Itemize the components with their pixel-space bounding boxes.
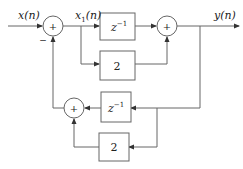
top-gain-label: 2: [114, 60, 121, 73]
right-summer-plus: +: [163, 21, 171, 32]
left-summer-minus: −: [39, 35, 47, 45]
bottom-summer-plus: +: [70, 103, 78, 114]
bottom-gain-label: 2: [111, 141, 118, 154]
block-diagram: + + + − x(n) x1(n) y(n) z−1 2 z−1 2: [0, 0, 243, 169]
output-label: y(n): [213, 9, 236, 22]
left-summer-plus: +: [49, 21, 57, 32]
x1-label: x1(n): [75, 9, 101, 24]
input-label: x(n): [18, 9, 40, 22]
